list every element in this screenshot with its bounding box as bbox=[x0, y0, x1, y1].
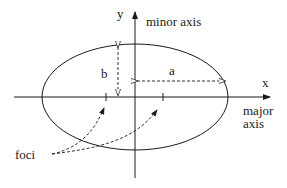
ellipse-diagram: y minor axis x major axis b a foci bbox=[0, 0, 287, 188]
foci-pointer-left bbox=[52, 108, 104, 154]
minor-axis-label: minor axis bbox=[146, 14, 201, 29]
foci-label: foci bbox=[15, 147, 36, 162]
y-axis-label: y bbox=[117, 6, 124, 21]
semi-major-label: a bbox=[169, 63, 175, 78]
x-axis-label: x bbox=[262, 75, 269, 90]
major-axis-label-line2: axis bbox=[243, 116, 264, 131]
semi-minor-label: b bbox=[101, 66, 108, 81]
